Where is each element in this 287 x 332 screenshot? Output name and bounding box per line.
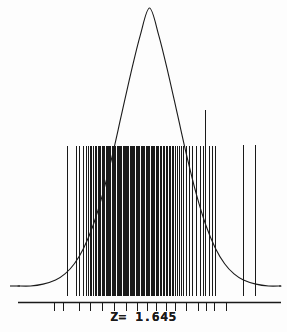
density-curve-group [10, 8, 281, 286]
plot-canvas [0, 0, 287, 332]
z-distribution-figure: Z= 1.645 [0, 0, 287, 332]
rug-marks-group [68, 110, 256, 296]
z-critical-value-label: Z= 1.645 [0, 309, 287, 324]
